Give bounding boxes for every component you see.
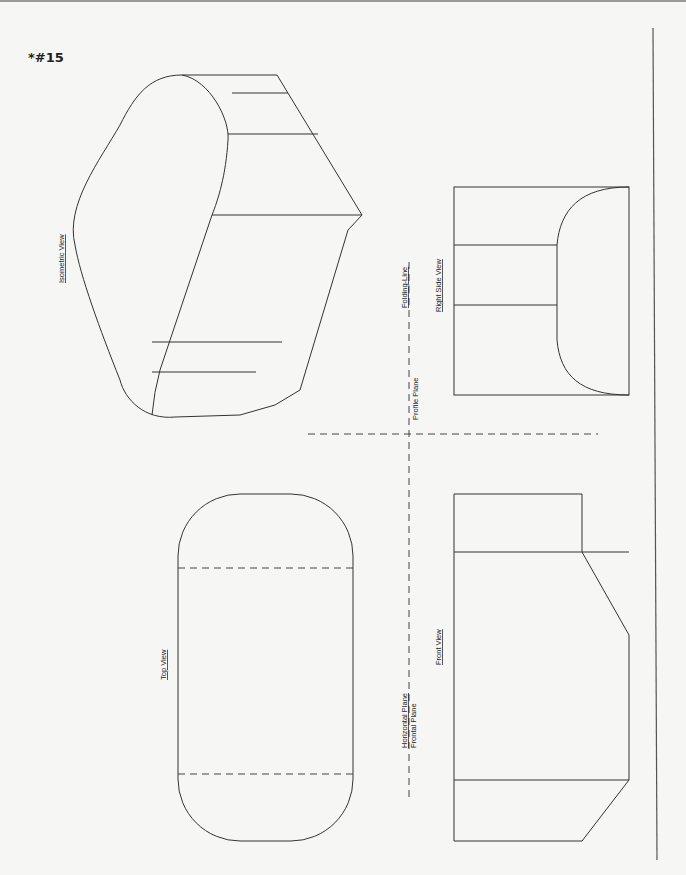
isometric-outline — [73, 75, 362, 417]
front-view: Front View — [434, 494, 629, 841]
right-side-curve — [557, 187, 629, 395]
right-side-view-label: Right Side View — [434, 259, 443, 312]
isometric-view-label: Isometric View — [57, 234, 66, 283]
margin-line — [653, 28, 657, 860]
folding-line-label: Folding-Line — [400, 267, 409, 308]
profile-plane-label: Profile Plane — [411, 377, 420, 420]
isometric-curved-face — [182, 75, 228, 215]
frontal-plane-label: Frontal Plane — [409, 703, 418, 748]
top-view-outline — [178, 494, 353, 841]
right-side-view: Right Side View — [434, 187, 629, 395]
right-side-outline — [454, 187, 629, 395]
isometric-view: Isometric View — [57, 75, 362, 417]
front-view-label: Front View — [434, 629, 443, 665]
drawing-sheet: Isometric View Right Side View Folding-L… — [0, 0, 686, 875]
top-view: Top View — [159, 494, 353, 841]
horizontal-plane-label: Horizontal Plane — [400, 693, 409, 748]
iso-edge — [152, 215, 212, 415]
front-view-outline — [454, 494, 629, 841]
top-view-label: Top View — [159, 649, 168, 680]
